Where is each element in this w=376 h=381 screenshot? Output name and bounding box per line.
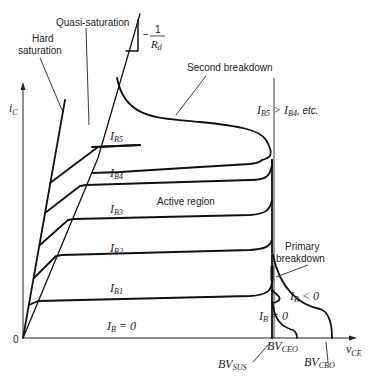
ib-order-label: IB5 > IB4, etc. (256, 103, 319, 118)
y-axis-arrow-icon (21, 82, 26, 90)
bvcbo-leader (326, 342, 328, 362)
hard-saturation-line (23, 100, 65, 338)
quasi-saturation-leader (86, 28, 89, 125)
bvceo-label: BVCEO (267, 339, 298, 354)
primary-breakdown-leader (276, 265, 308, 277)
hard-saturation-leader (40, 58, 62, 110)
curve-label-ib4: IB4 (109, 166, 123, 181)
curve-ib1-bump (272, 290, 280, 303)
svg-text:−: − (143, 29, 149, 40)
curve-label-ib-zero: IB = 0 (106, 319, 136, 334)
curve-ib2 (34, 240, 272, 278)
slope-label: − 1 Rd (143, 24, 165, 52)
hard-saturation-label-2: saturation (18, 45, 62, 56)
bvcbo-label: BVCBO (304, 355, 335, 370)
primary-breakdown-label-1: Primary (285, 241, 319, 252)
quasi-saturation-label: Quasi-saturation (56, 17, 129, 28)
curve-ib1 (29, 280, 272, 305)
y-axis-label: iC (9, 101, 18, 117)
origin-label: 0 (13, 334, 19, 345)
ib-zero-right-label: IB = 0 (258, 309, 288, 324)
primary-breakdown-label-2: breakdown (276, 253, 325, 264)
bjt-output-characteristics-diagram: iC vCE 0 Hard saturation Quasi-saturatio… (0, 0, 376, 381)
bvsus-label: BVSUS (218, 357, 246, 372)
second-breakdown-curve (117, 78, 271, 160)
x-axis-arrow-icon (349, 336, 357, 341)
hard-saturation-label-1: Hard (32, 33, 54, 44)
curve-label-ib2: IB2 (109, 241, 123, 256)
curve-ib5-top-segment (92, 145, 140, 147)
ib-negative-label: IB < 0 (289, 289, 319, 304)
svg-text:1: 1 (155, 24, 161, 35)
curve-label-ib3: IB3 (109, 202, 123, 217)
curve-label-ib1: IB1 (109, 281, 123, 296)
second-breakdown-label: Second breakdown (187, 62, 273, 73)
second-breakdown-leader (176, 76, 206, 115)
curve-ib3 (40, 200, 272, 245)
curve-label-ib5: IB5 (109, 129, 123, 144)
svg-text:Rd: Rd (150, 38, 163, 52)
x-axis-label: vCE (346, 342, 362, 358)
active-region-label: Active region (157, 196, 215, 207)
